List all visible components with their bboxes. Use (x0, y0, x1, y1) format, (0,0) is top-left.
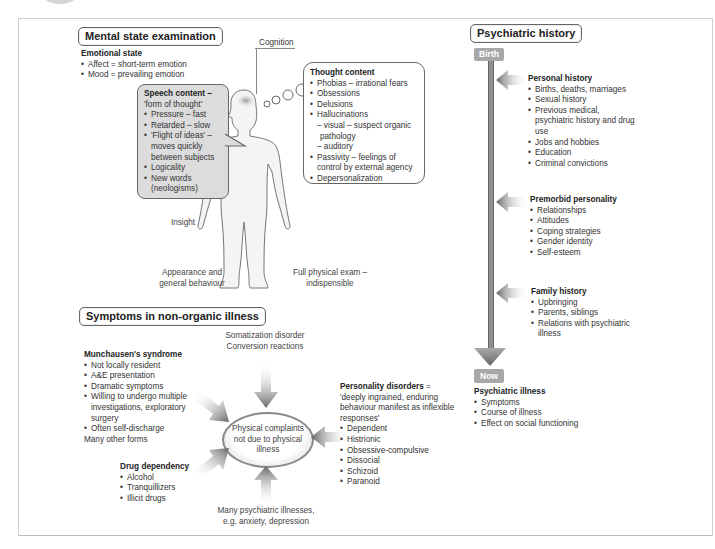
emotional-state-section: Emotional state Affect = short-term emot… (81, 49, 221, 81)
arrow-down-icon (254, 362, 278, 408)
personality-disorders-definition: 'deeply ingrained, enduring behaviour ma… (340, 393, 462, 425)
munchausen-section: Munchausen's syndrome Not locally reside… (84, 350, 199, 445)
speech-item: Retarded – slow (144, 121, 222, 132)
physical-exam-label: Full physical exam – indispensible (290, 268, 370, 289)
munchausen-item: Often self-discharge (84, 424, 199, 435)
speech-item: Pressure – fast (144, 110, 222, 121)
personal-history-item: Jobs and hobbies (528, 138, 638, 149)
thought-item: Delusions (310, 100, 418, 111)
insight-label: Insight (158, 218, 208, 229)
drug-dependency-item: Illicit drugs (120, 494, 210, 505)
timeline-arrow-down-icon (474, 348, 506, 366)
drug-dependency-item: Tranquillizers (120, 483, 210, 494)
hallucination-subitem: – auditory (310, 142, 418, 153)
emotional-state-item: Affect = short-term emotion (81, 60, 221, 71)
psychiatric-illness-item: Course of illness (474, 408, 614, 419)
now-label: Now (474, 369, 504, 383)
personality-disorder-item: Obsessive-compulsive (340, 446, 462, 457)
personality-disorders-section: Personality disorders = 'deeply ingraine… (340, 382, 462, 488)
non-organic-title: Symptoms in non-organic illness (79, 307, 266, 326)
personal-history-item: Education (528, 148, 638, 159)
personal-history-heading: Personal history (528, 74, 638, 85)
speech-content-text: Speech content – 'form of thought' Press… (138, 85, 228, 199)
personality-disorder-item: Dissocial (340, 456, 462, 467)
speech-content-heading: Speech content – (144, 89, 222, 100)
personal-history-section: Personal history Births, deaths, marriag… (528, 74, 638, 169)
appearance-label: Appearance and general behaviour (152, 268, 232, 289)
emotional-state-item: Mood = prevailing emotion (81, 70, 221, 81)
munchausen-footer: Many other forms (84, 435, 199, 446)
arrow-left-icon (496, 70, 528, 90)
psychiatric-illness-item: Symptoms (474, 398, 614, 409)
speech-bubble-tail-icon (225, 132, 247, 152)
personality-disorders-heading-suffix: = (424, 382, 431, 391)
personality-disorder-item: Histrionic (340, 435, 462, 446)
physical-complaints-ellipse: Physical complaints not due to physical … (222, 412, 314, 468)
emotional-state-heading: Emotional state (81, 49, 221, 60)
premorbid-item: Attitudes (530, 216, 640, 227)
thought-content-bubble: Thought content Phobias – irrational fea… (303, 62, 425, 184)
arrow-left-icon (496, 283, 528, 303)
timeline-bar (488, 61, 494, 351)
family-history-item: Parents, siblings (531, 308, 641, 319)
family-history-item: Relations with psychiatric illness (531, 319, 641, 340)
premorbid-personality-section: Premorbid personality Relationships Atti… (530, 195, 640, 259)
hallucination-subitem: – visual – suspect organic pathology (310, 121, 418, 142)
personality-disorders-heading: Personality disorders (340, 382, 424, 391)
premorbid-item: Relationships (530, 206, 640, 217)
speech-content-subheading: 'form of thought' (144, 100, 222, 111)
premorbid-personality-heading: Premorbid personality (530, 195, 640, 206)
drug-dependency-section: Drug dependency Alcohol Tranquillizers I… (120, 462, 210, 504)
arrow-up-icon (254, 466, 278, 506)
thought-content-text: Thought content Phobias – irrational fea… (304, 63, 424, 190)
psychiatric-illness-section: Psychiatric illness Symptoms Course of i… (474, 387, 614, 429)
thought-item: Obsessions (310, 89, 418, 100)
personality-disorder-item: Schizoid (340, 467, 462, 478)
psychiatric-illness-item: Effect on social functioning (474, 419, 614, 430)
thought-item: Phobias – irrational fears (310, 79, 418, 90)
speech-content-bubble: Speech content – 'form of thought' Press… (137, 84, 229, 199)
drug-dependency-item: Alcohol (120, 473, 210, 484)
munchausen-item: Willing to undergo multiple investigatio… (84, 392, 199, 424)
munchausen-item: Not locally resident (84, 361, 199, 372)
personality-disorder-item: Paranoid (340, 477, 462, 488)
munchausen-item: A&E presentation (84, 371, 199, 382)
drug-dependency-heading: Drug dependency (120, 462, 210, 473)
thought-item: Passivity – feelings of control by exter… (310, 153, 418, 174)
speech-item: Logicality (144, 163, 222, 174)
premorbid-item: Gender identity (530, 237, 640, 248)
psychiatric-illnesses-label: Many psychiatric illnesses, e.g. anxiety… (210, 506, 322, 527)
personal-history-item: Births, deaths, marriages (528, 85, 638, 96)
speech-item: New words (neologisms) (144, 174, 222, 195)
cognition-underline (255, 48, 295, 49)
family-history-heading: Family history (531, 287, 641, 298)
cognition-label: Cognition (259, 38, 294, 49)
personality-disorder-item: Dependent (340, 424, 462, 435)
mental-state-title: Mental state examination (78, 27, 223, 46)
family-history-item: Upbringing (531, 298, 641, 309)
speech-item: 'Flight of ideas' – moves quickly betwee… (144, 131, 222, 163)
thought-item: Depersonalization (310, 174, 418, 185)
psychiatric-history-title: Psychiatric history (470, 24, 582, 43)
personal-history-item: Previous medical, psychiatric history an… (528, 106, 638, 138)
birth-label: Birth (474, 48, 504, 61)
physical-complaints-label: Physical complaints not due to physical … (230, 424, 306, 456)
premorbid-item: Coping strategies (530, 227, 640, 238)
arrow-left-icon (496, 192, 528, 212)
thought-item: Hallucinations (310, 110, 418, 121)
thought-content-heading: Thought content (310, 68, 418, 79)
psychiatric-illness-heading: Psychiatric illness (474, 387, 614, 398)
munchausen-heading: Munchausen's syndrome (84, 350, 199, 361)
family-history-section: Family history Upbringing Parents, sibli… (531, 287, 641, 340)
premorbid-item: Self-esteem (530, 248, 640, 259)
somatization-label: Somatization disorder Conversion reactio… (210, 331, 320, 352)
corner-tab-decoration (38, 0, 82, 4)
munchausen-item: Dramatic symptoms (84, 382, 199, 393)
arrow-down-right-icon (195, 392, 231, 424)
personal-history-item: Criminal convictions (528, 159, 638, 170)
personal-history-item: Sexual history (528, 95, 638, 106)
